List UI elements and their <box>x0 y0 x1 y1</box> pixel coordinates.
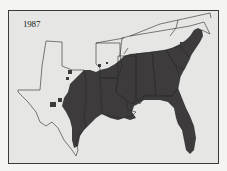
map-canvas <box>0 0 227 171</box>
kentucky-outline <box>96 38 124 43</box>
occupied-region <box>50 28 203 154</box>
